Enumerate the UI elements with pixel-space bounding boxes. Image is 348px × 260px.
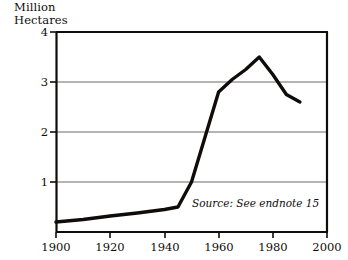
x-tick-label-2000: 2000 bbox=[304, 240, 348, 254]
x-tick-label-1920: 1920 bbox=[87, 240, 133, 254]
source-annotation: Source: See endnote 15 bbox=[192, 197, 319, 209]
grid-lines bbox=[56, 82, 328, 182]
x-tick-label-1980: 1980 bbox=[250, 240, 296, 254]
y-tick-label-1: 1 bbox=[26, 175, 48, 189]
chart-canvas bbox=[0, 0, 348, 260]
x-tick-label-1960: 1960 bbox=[196, 240, 242, 254]
y-tick-label-2: 2 bbox=[26, 125, 48, 139]
y-axis-ticks bbox=[50, 32, 56, 182]
x-tick-label-1940: 1940 bbox=[142, 240, 188, 254]
chart-figure: Million Hectares 4 3 bbox=[0, 0, 348, 260]
y-tick-label-3: 3 bbox=[26, 75, 48, 89]
y-tick-label-4: 4 bbox=[26, 25, 48, 39]
x-tick-label-1900: 1900 bbox=[33, 240, 79, 254]
